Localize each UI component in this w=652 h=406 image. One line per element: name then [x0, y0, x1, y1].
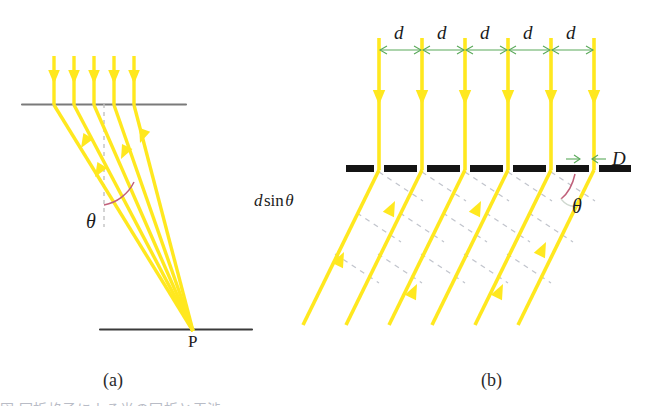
panel-b-diffracted-ray — [518, 170, 594, 325]
panel-a-point-p-label: P — [188, 333, 197, 350]
grating-bar — [556, 165, 589, 172]
panel-a-theta-label: θ — [86, 211, 96, 231]
path-diff-sin: sin — [264, 191, 284, 210]
panel-b-path-difference-label: d sin θ — [254, 192, 294, 209]
panel-b-spacing-label-1: d — [394, 23, 404, 42]
panel-b-spacing-label-5: d — [566, 23, 576, 42]
arrow-head-icon — [128, 70, 140, 84]
panel-a-converging-ray — [114, 105, 193, 331]
panel-b-incident-rays — [379, 38, 594, 170]
panel-b-spacing-label-3: d — [480, 23, 490, 42]
panel-a-incident-arrowheads — [48, 70, 140, 84]
arrow-head-icon — [373, 90, 385, 105]
arrow-head-icon — [108, 70, 120, 84]
panel-b-theta-label: θ — [572, 196, 582, 216]
arrow-head-icon — [588, 90, 600, 105]
arrow-head-icon — [502, 90, 514, 105]
panel-b-diffracted-ray — [303, 170, 379, 325]
arrow-head-icon — [459, 90, 471, 105]
panel-b-diffracted-ray — [389, 170, 465, 325]
figure-caption-faint: 図 回折格子による光の回折と干渉 — [0, 398, 652, 406]
panel-b-grating-bars — [346, 165, 631, 172]
arrow-head-icon — [383, 198, 401, 217]
panel-b-incident-arrowheads — [373, 90, 600, 105]
panel-a-converging-ray — [54, 105, 193, 331]
panel-b-group — [303, 38, 631, 325]
panel-b-diffracted-ray — [432, 170, 508, 325]
arrow-head-icon — [416, 90, 428, 105]
panel-b-spacing-label-4: d — [523, 23, 533, 42]
grating-bar — [427, 165, 460, 172]
panel-b-diffracted-ray — [346, 170, 422, 325]
arrow-head-icon — [68, 70, 80, 84]
wavefront-dashed-line — [379, 172, 423, 201]
panel-b-diffracted-ray — [475, 170, 551, 325]
arrow-head-icon — [534, 239, 552, 258]
grating-bar — [470, 165, 503, 172]
panel-a-caption-label: (a) — [103, 371, 123, 389]
path-diff-d: d — [254, 191, 263, 210]
panel-b-slit-width-arrows — [566, 155, 606, 163]
wavefront-dashed-line — [508, 172, 552, 201]
arrow-head-icon — [545, 90, 557, 105]
path-diff-theta: θ — [285, 191, 293, 210]
panel-b-slit-width-label: D — [612, 149, 626, 168]
wavefront-dashed-line — [465, 172, 509, 201]
grating-bar — [513, 165, 546, 172]
panel-a-converging-rays — [54, 105, 193, 331]
panel-b-caption-label: (b) — [481, 371, 502, 389]
panel-b-diffracted-rays — [303, 170, 594, 325]
panel-b-spacing-arrows — [380, 46, 593, 54]
panel-a-group — [22, 56, 252, 331]
grating-bar — [384, 165, 417, 172]
wavefront-dashed-line — [422, 172, 466, 201]
arrow-head-icon — [48, 70, 60, 84]
grating-bar — [346, 165, 374, 172]
arrow-head-icon — [88, 70, 100, 84]
arrow-head-icon — [469, 198, 487, 217]
panel-b-spacing-label-2: d — [437, 23, 447, 42]
